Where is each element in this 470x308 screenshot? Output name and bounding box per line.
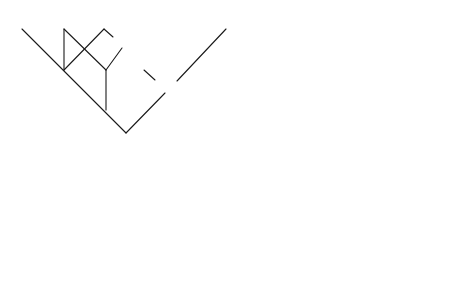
edge bbox=[177, 29, 226, 81]
edge bbox=[104, 29, 113, 37]
figure bbox=[0, 0, 470, 308]
edge bbox=[106, 48, 122, 70]
edge bbox=[126, 93, 165, 133]
edge bbox=[144, 70, 155, 80]
top-left-tree bbox=[22, 29, 226, 133]
edge bbox=[22, 29, 126, 133]
